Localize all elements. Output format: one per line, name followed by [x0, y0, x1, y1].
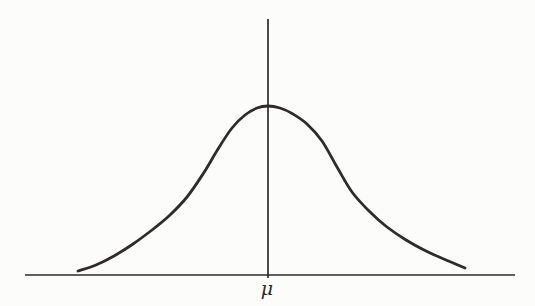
figure-container: μ	[0, 0, 535, 306]
mean-mu-label: μ	[261, 277, 273, 299]
normal-curve	[78, 106, 465, 271]
figure-canvas: μ	[0, 0, 535, 306]
